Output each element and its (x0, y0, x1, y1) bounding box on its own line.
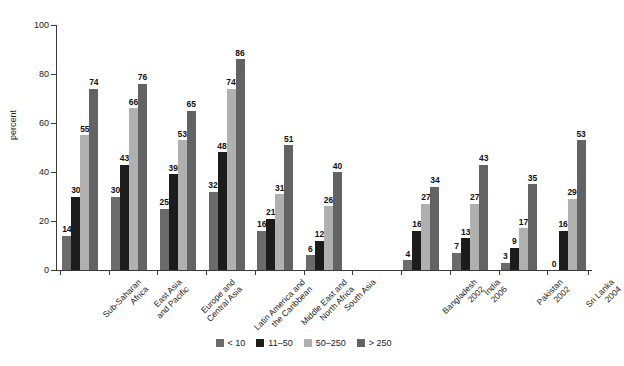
bar-slot: 0 (550, 25, 559, 270)
legend-item[interactable]: 11–50 (256, 338, 292, 348)
x-category-label: Latin America andthe Caribbean (252, 277, 314, 339)
bar-slot: 74 (227, 25, 236, 270)
x-category-label: Bangladesh2002 (440, 277, 486, 323)
bar[interactable] (236, 59, 245, 270)
bar-slot: 65 (187, 25, 196, 270)
bar[interactable] (138, 84, 147, 270)
bar[interactable] (412, 231, 421, 270)
y-tick-label: 40 (39, 168, 49, 177)
bar[interactable] (501, 263, 510, 270)
bar-value-label: 76 (138, 73, 147, 82)
legend-swatch (256, 339, 264, 347)
bar-slot: 7 (452, 25, 461, 270)
bar[interactable] (178, 140, 187, 270)
bar-slot: 40 (333, 25, 342, 270)
bar[interactable] (315, 241, 324, 270)
bar-slot: 35 (528, 25, 537, 270)
bar[interactable] (577, 140, 586, 270)
bar[interactable] (187, 111, 196, 270)
x-tick (450, 270, 451, 275)
bar[interactable] (559, 231, 568, 270)
bar-slot: 21 (266, 25, 275, 270)
bar-value-label: 17 (519, 218, 528, 227)
bar[interactable] (227, 89, 236, 270)
bar[interactable] (257, 231, 266, 270)
bar-slot: 26 (324, 25, 333, 270)
x-category-label: India2006 (482, 277, 510, 305)
bar-slot: 3 (501, 25, 510, 270)
y-tick (51, 270, 56, 271)
bar[interactable] (266, 219, 275, 270)
bar[interactable] (120, 165, 129, 270)
bar[interactable] (519, 228, 528, 270)
bar-value-label: 4 (406, 250, 411, 259)
legend-label: > 250 (369, 338, 392, 348)
bar-slot: 74 (89, 25, 98, 270)
bar-slot: 43 (479, 25, 488, 270)
bar-slot: 9 (510, 25, 519, 270)
bar-slot: 30 (71, 25, 80, 270)
bar-group-bars: 391735 (495, 25, 544, 270)
x-tick (304, 270, 305, 275)
x-tick (588, 270, 589, 275)
bar-slot: 27 (470, 25, 479, 270)
bar-slot: 12 (315, 25, 324, 270)
bar[interactable] (430, 187, 439, 270)
bar[interactable] (306, 255, 315, 270)
bar[interactable] (80, 135, 89, 270)
bar-slot: 48 (218, 25, 227, 270)
legend-label: < 10 (228, 338, 246, 348)
bar[interactable] (71, 197, 80, 271)
bar-slot: 14 (62, 25, 71, 270)
bar-value-label: 66 (129, 98, 138, 107)
bar-value-label: 43 (120, 154, 129, 163)
bar[interactable] (62, 236, 71, 270)
bar[interactable] (111, 197, 120, 271)
bar[interactable] (169, 174, 178, 270)
legend-swatch (304, 339, 312, 347)
bar-slot: 25 (160, 25, 169, 270)
y-tick-label: 20 (39, 217, 49, 226)
bar-value-label: 27 (421, 193, 430, 202)
x-tick (401, 270, 402, 275)
legend-label: 50–250 (316, 338, 346, 348)
bar-slot: 29 (568, 25, 577, 270)
legend-item[interactable]: 50–250 (304, 338, 346, 348)
bar-value-label: 16 (412, 220, 421, 229)
bar-value-label: 39 (169, 164, 178, 173)
legend-item[interactable]: > 250 (357, 338, 392, 348)
bar[interactable] (479, 165, 488, 270)
bar[interactable] (89, 89, 98, 270)
legend-item[interactable]: < 10 (216, 338, 246, 348)
bar[interactable] (160, 209, 169, 270)
bar[interactable] (209, 192, 218, 270)
x-category-label: Sri Lanka2004 (584, 277, 624, 317)
bar[interactable] (324, 206, 333, 270)
x-tick (255, 270, 256, 275)
bar[interactable] (403, 260, 412, 270)
bar[interactable] (129, 108, 138, 270)
bar-group: 25395365 (153, 25, 202, 270)
bar[interactable] (452, 253, 461, 270)
y-tick-label: 60 (39, 119, 49, 128)
bar-value-label: 53 (576, 130, 585, 139)
bar-group-bars: 6122640 (300, 25, 349, 270)
bar-value-label: 86 (235, 49, 244, 58)
bar-group-bars: 14305574 (56, 25, 105, 270)
bar[interactable] (528, 184, 537, 270)
bar-value-label: 9 (512, 237, 517, 246)
bar[interactable] (510, 248, 519, 270)
bar[interactable] (461, 238, 470, 270)
bar-group-bars: 0162953 (543, 25, 592, 270)
bar[interactable] (275, 194, 284, 270)
legend-label: 11–50 (268, 338, 292, 348)
x-tick (60, 270, 61, 275)
bar[interactable] (568, 199, 577, 270)
bar[interactable] (421, 204, 430, 270)
bar-value-label: 55 (80, 125, 89, 134)
bar[interactable] (218, 152, 227, 270)
bar[interactable] (333, 172, 342, 270)
bar-group-bars: 25395365 (153, 25, 202, 270)
bar[interactable] (284, 145, 293, 270)
bar[interactable] (470, 204, 479, 270)
